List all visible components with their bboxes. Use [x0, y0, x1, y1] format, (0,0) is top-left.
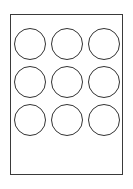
label-cell[interactable]	[88, 66, 121, 99]
label-grid	[14, 28, 121, 137]
circle-label[interactable]	[14, 66, 46, 98]
label-cell[interactable]	[51, 104, 84, 137]
label-cell[interactable]	[88, 28, 121, 61]
circle-label[interactable]	[88, 104, 120, 136]
circle-label[interactable]	[51, 104, 83, 136]
label-cell[interactable]	[88, 104, 121, 137]
label-cell[interactable]	[51, 66, 84, 99]
image-canvas	[0, 0, 133, 189]
circle-label[interactable]	[51, 28, 83, 60]
label-sheet-page[interactable]	[10, 14, 123, 175]
label-cell[interactable]	[51, 28, 84, 61]
circle-label[interactable]	[51, 66, 83, 98]
label-cell[interactable]	[14, 28, 47, 61]
circle-label[interactable]	[88, 28, 120, 60]
circle-label[interactable]	[14, 104, 46, 136]
circle-label[interactable]	[88, 66, 120, 98]
label-cell[interactable]	[14, 66, 47, 99]
circle-label[interactable]	[14, 28, 46, 60]
label-cell[interactable]	[14, 104, 47, 137]
